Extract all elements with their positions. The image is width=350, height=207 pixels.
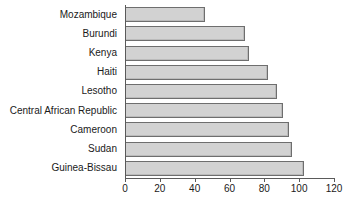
bar <box>125 46 249 61</box>
bar-row <box>125 5 334 24</box>
x-axis-tick <box>195 178 196 182</box>
bar-row <box>125 82 334 101</box>
x-axis-tick <box>160 178 161 182</box>
x-axis-tick <box>334 178 335 182</box>
bar-series <box>125 5 334 178</box>
category-label: Burundi <box>0 24 121 43</box>
x-axis-tick <box>264 178 265 182</box>
bar <box>125 26 245 41</box>
bar-row <box>125 24 334 43</box>
bar <box>125 84 277 99</box>
category-label: Mozambique <box>0 5 121 24</box>
x-axis-tick <box>125 178 126 182</box>
bar <box>125 103 283 118</box>
category-label: Guinea-Bissau <box>0 159 121 178</box>
category-label: Cameroon <box>0 120 121 139</box>
bar <box>125 161 304 176</box>
y-axis-line <box>125 5 126 178</box>
bar-row <box>125 43 334 62</box>
x-axis-tick-label: 120 <box>326 183 343 195</box>
x-axis-tick-label: 80 <box>259 183 270 195</box>
x-axis-tick <box>230 178 231 182</box>
x-axis-tick-label: 20 <box>154 183 165 195</box>
bar-row <box>125 101 334 120</box>
plot-area <box>125 5 334 178</box>
bar-row <box>125 63 334 82</box>
bar <box>125 142 292 157</box>
x-axis-tick-label: 60 <box>224 183 235 195</box>
category-label: Central African Republic <box>0 101 121 120</box>
category-label: Lesotho <box>0 82 121 101</box>
bar-row <box>125 120 334 139</box>
x-axis-tick <box>299 178 300 182</box>
bar <box>125 65 268 80</box>
category-axis-labels: MozambiqueBurundiKenyaHaitiLesothoCentra… <box>0 5 121 178</box>
category-label: Kenya <box>0 43 121 62</box>
x-axis-tick-label: 0 <box>122 183 128 195</box>
x-axis-tick-label: 40 <box>189 183 200 195</box>
category-label: Sudan <box>0 140 121 159</box>
bar-chart: MozambiqueBurundiKenyaHaitiLesothoCentra… <box>0 0 350 207</box>
bar <box>125 122 289 137</box>
category-label: Haiti <box>0 63 121 82</box>
bar <box>125 7 205 22</box>
x-axis-tick-label: 100 <box>291 183 308 195</box>
bar-row <box>125 159 334 178</box>
bar-row <box>125 140 334 159</box>
